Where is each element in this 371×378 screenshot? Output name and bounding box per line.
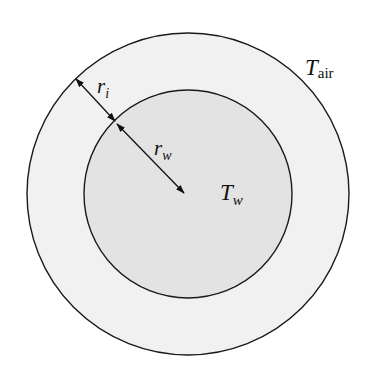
diagram-canvas: ri rw Tw Tair bbox=[0, 0, 371, 378]
tair-label: Tair bbox=[305, 55, 334, 81]
inner-circle bbox=[84, 90, 292, 298]
